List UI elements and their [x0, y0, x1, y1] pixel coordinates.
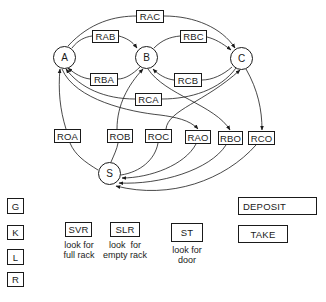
- transition-rab[interactable]: RAB: [92, 30, 119, 43]
- state-s[interactable]: S: [98, 162, 121, 185]
- state-b-label: B: [143, 52, 150, 63]
- edge-rco: [246, 69, 262, 130]
- transition-rcb[interactable]: RCB: [174, 73, 202, 87]
- primitive-l-label: L: [13, 252, 18, 263]
- primitive-g[interactable]: G: [7, 198, 24, 214]
- primitive-k[interactable]: K: [7, 225, 24, 240]
- action-deposit[interactable]: DEPOSIT: [238, 197, 317, 215]
- action-take[interactable]: TAKE: [238, 225, 288, 243]
- transition-roc[interactable]: ROC: [145, 129, 172, 143]
- primitive-r[interactable]: R: [7, 272, 24, 287]
- primitive-r-label: R: [12, 274, 19, 285]
- transition-roc-label: ROC: [148, 131, 170, 142]
- transition-roa[interactable]: ROA: [54, 129, 81, 143]
- state-c-label: C: [238, 53, 245, 64]
- transition-rao[interactable]: RAO: [185, 130, 211, 144]
- sensor-svr-caption-line2: full rack: [58, 250, 100, 260]
- edge-rbc: [154, 36, 180, 48]
- state-a[interactable]: A: [53, 46, 76, 69]
- sensor-st-label: ST: [181, 227, 194, 238]
- edge-rab: [72, 36, 92, 48]
- transition-rao-label: RAO: [187, 132, 208, 143]
- sensor-slr[interactable]: SLR: [110, 222, 140, 237]
- state-b[interactable]: B: [135, 46, 158, 69]
- sensor-slr-caption: look for empty rack: [100, 240, 150, 260]
- transition-rbo[interactable]: RBO: [218, 131, 243, 145]
- transition-rba[interactable]: RBA: [90, 73, 118, 86]
- state-c[interactable]: C: [230, 47, 253, 70]
- sensor-slr-label: SLR: [115, 224, 134, 235]
- transition-rob-label: ROB: [109, 131, 130, 142]
- transition-rac[interactable]: RAC: [136, 10, 164, 23]
- sensor-svr-caption: look for full rack: [58, 240, 100, 260]
- primitive-g-label: G: [12, 201, 20, 212]
- sensor-slr-caption-line2: empty rack: [100, 250, 150, 260]
- edge-roa: [70, 143, 98, 170]
- primitive-k-label: K: [12, 227, 19, 238]
- primitive-l[interactable]: L: [7, 249, 24, 265]
- sensor-svr-label: SVR: [68, 224, 88, 235]
- transition-edges: [0, 0, 326, 302]
- edge-roc: [121, 143, 158, 175]
- sensor-st-caption-line2: door: [166, 255, 208, 265]
- transition-rbc-label: RBC: [183, 31, 204, 42]
- transition-rbo-label: RBO: [220, 133, 241, 144]
- transition-rco-label: RCO: [251, 133, 273, 144]
- transition-rba-label: RBA: [94, 74, 114, 85]
- action-take-label: TAKE: [251, 229, 276, 240]
- transition-rcb-label: RCB: [178, 75, 199, 86]
- transition-rac-label: RAC: [140, 11, 161, 22]
- transition-rca-label: RCA: [138, 94, 159, 105]
- transition-roa-label: ROA: [57, 131, 78, 142]
- sensor-st-caption-line1: look for: [166, 245, 208, 255]
- sensor-svr-caption-line1: look for: [58, 240, 100, 250]
- edge-rcb: [202, 67, 232, 80]
- state-s-label: S: [106, 168, 113, 179]
- transition-rca[interactable]: RCA: [135, 93, 162, 106]
- state-a-label: A: [61, 52, 68, 63]
- transition-rco[interactable]: RCO: [248, 131, 275, 145]
- sensor-svr[interactable]: SVR: [65, 222, 92, 237]
- sensor-st-caption: look for door: [166, 245, 208, 265]
- transition-rbc[interactable]: RBC: [180, 30, 207, 43]
- transition-rob[interactable]: ROB: [107, 129, 133, 143]
- transition-rab-label: RAB: [95, 31, 115, 42]
- sensor-st[interactable]: ST: [171, 223, 203, 242]
- sensor-slr-caption-line1: look for: [100, 240, 150, 250]
- action-deposit-label: DEPOSIT: [243, 201, 286, 212]
- edge-rob: [111, 143, 118, 162]
- edge-rba: [118, 67, 140, 79]
